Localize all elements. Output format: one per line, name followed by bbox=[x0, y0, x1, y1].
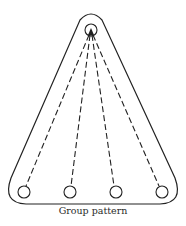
apex-arrowhead-icon bbox=[88, 28, 94, 35]
triangular-plate-outline bbox=[9, 14, 178, 204]
hole-3 bbox=[110, 186, 122, 198]
group-pattern-diagram bbox=[0, 0, 186, 226]
bottom-holes bbox=[18, 186, 168, 198]
hole-2 bbox=[64, 186, 76, 198]
hole-4 bbox=[156, 186, 168, 198]
figure-caption: Group pattern bbox=[0, 205, 186, 216]
hole-1 bbox=[18, 186, 30, 198]
dashed-lines bbox=[26, 35, 159, 186]
